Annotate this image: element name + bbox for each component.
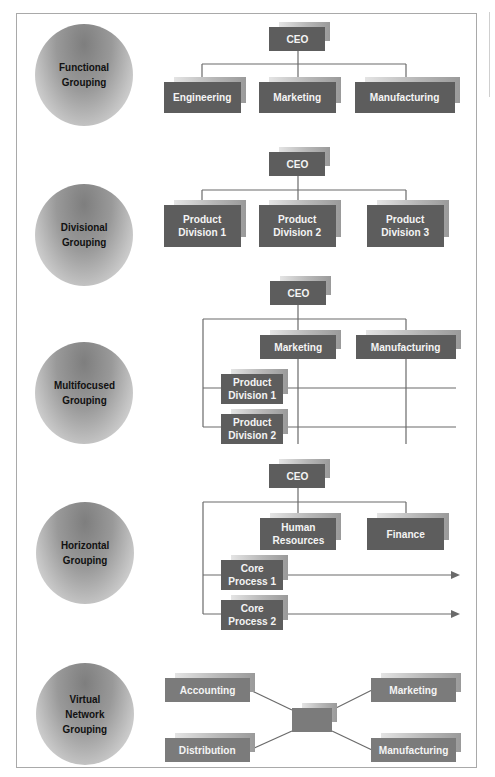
node-product-division-2: Product Division 2 [259,205,336,247]
node-distribution: Distribution [165,738,250,762]
node-label: Product Division 2 [228,416,276,442]
node-network-hub [292,708,332,732]
node-engineering: Engineering [164,82,241,113]
node-label: Manufacturing [371,341,441,354]
node-product-division-1: Product Division 1 [164,205,241,247]
horizontal-grouping-label: Horizontal Grouping [36,502,134,604]
node-marketing: Marketing [260,335,336,359]
node-label: Engineering [173,91,231,104]
node-manufacturing: Manufacturing [371,738,456,762]
node-label: Finance [386,528,424,541]
multifocused-grouping-label: Multifocused Grouping [35,342,133,444]
node-label: Marketing [274,341,322,354]
node-label: CEO [286,470,308,483]
node-label: Manufacturing [379,744,449,757]
node-ceo: CEO [269,27,325,51]
node-label: Product Division 1 [179,213,227,239]
node-label: Accounting [180,684,236,697]
divisional-grouping-label: Divisional Grouping [35,184,133,286]
node-label: Manufacturing [370,91,440,104]
grouping-label-text: Divisional Grouping [61,220,108,250]
node-core-process-2: Core Process 2 [221,600,283,630]
node-label: Product Division 1 [228,376,276,402]
node-ceo: CEO [269,464,325,488]
node-product-division-3: Product Division 3 [367,205,444,247]
node-manufacturing: Manufacturing [355,82,455,113]
node-label: Human Resources [272,521,324,547]
node-product-division-2: Product Division 2 [221,414,283,444]
node-ceo: CEO [269,152,325,176]
node-label: CEO [286,33,308,46]
node-label: Distribution [179,744,236,757]
node-manufacturing: Manufacturing [356,335,456,359]
grouping-label-text: Functional Grouping [59,60,109,90]
node-label: CEO [286,158,308,171]
grouping-label-text: Horizontal Grouping [61,538,109,568]
node-core-process-1: Core Process 1 [221,560,283,590]
node-label: Product Division 3 [382,213,430,239]
node-marketing: Marketing [259,82,336,113]
virtual-network-grouping-label: Virtual Network Grouping [36,663,134,765]
node-accounting: Accounting [165,678,250,702]
node-human-resources: Human Resources [260,518,336,550]
node-marketing: Marketing [371,678,456,702]
node-ceo: CEO [270,281,326,305]
node-product-division-1: Product Division 1 [221,374,283,404]
node-label: Marketing [274,91,322,104]
node-label: Product Division 2 [274,213,322,239]
node-label: Marketing [390,684,438,697]
grouping-label-text: Multifocused Grouping [53,378,114,408]
node-label: CEO [287,287,309,300]
node-finance: Finance [367,518,444,550]
functional-grouping-label: Functional Grouping [35,24,133,126]
grouping-label-text: Virtual Network Grouping [63,692,108,737]
node-label: Core Process 2 [228,602,276,628]
node-label: Core Process 1 [228,562,276,588]
